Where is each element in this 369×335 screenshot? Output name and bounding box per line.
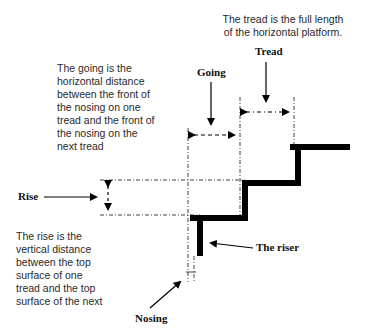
going-note-line: tread and the front of [57, 114, 154, 127]
tread-note-line: of the horizontal platform. [213, 26, 353, 39]
rise-note-line: vertical distance [16, 243, 102, 256]
rise-note-line: tread and the top [16, 282, 102, 295]
tread-note: The tread is the full length of the hori… [213, 13, 353, 39]
rise-note-line: The rise is the [16, 230, 102, 243]
going-note-line: horizontal distance [57, 75, 154, 88]
riser-label: The riser [256, 241, 299, 253]
rise-note-line: between the top [16, 256, 102, 269]
going-note-line: The going is the [57, 62, 154, 75]
staircase [190, 144, 350, 256]
going-note-line: next tread [57, 140, 154, 153]
rise-note-line: surface of the next [16, 295, 102, 308]
nosing-label: Nosing [135, 312, 167, 324]
rise-note: The rise is the vertical distance betwee… [16, 230, 102, 308]
tread-label: Tread [255, 45, 283, 57]
going-note-line: the nosing on one [57, 101, 154, 114]
rise-note-line: surface of one [16, 269, 102, 282]
rise-label: Rise [18, 190, 38, 202]
going-note-line: the nosing on the [57, 127, 154, 140]
going-note: The going is the horizontal distance bet… [57, 62, 154, 153]
going-label: Going [197, 66, 226, 78]
tread-note-line: The tread is the full length [213, 13, 353, 26]
going-note-line: between the front of [57, 88, 154, 101]
